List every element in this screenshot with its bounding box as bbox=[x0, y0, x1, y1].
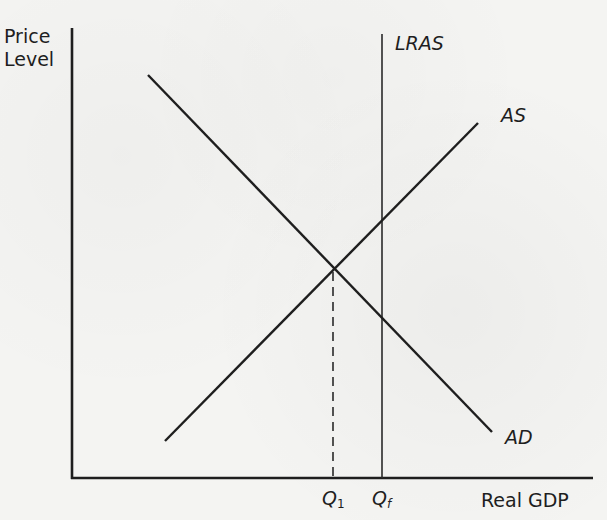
as-label: AS bbox=[501, 104, 526, 126]
ad-label: AD bbox=[505, 426, 533, 448]
q1-tick-label: Q1 bbox=[322, 487, 345, 511]
x-axis-label: Real GDP bbox=[481, 489, 569, 512]
qf-tick-label: Qf bbox=[372, 487, 391, 511]
y-axis-label-line2: Level bbox=[4, 48, 54, 71]
lras-label: LRAS bbox=[395, 32, 444, 54]
qf-main: Q bbox=[372, 487, 387, 509]
q1-sub: 1 bbox=[337, 497, 345, 511]
qf-sub: f bbox=[387, 497, 391, 511]
q1-main: Q bbox=[322, 487, 337, 509]
ad-line bbox=[148, 75, 492, 432]
as-line bbox=[165, 123, 478, 441]
y-axis-label-line1: Price bbox=[4, 25, 54, 48]
y-axis-label: Price Level bbox=[4, 25, 54, 71]
